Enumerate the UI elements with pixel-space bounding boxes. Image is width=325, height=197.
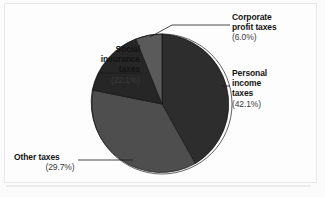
label-personal-percent: (42.1%) [232,99,261,109]
label-personal-line1: Personal [232,68,267,78]
label-personal-income-taxes: Personal income taxes (42.1%) [232,68,267,109]
label-social-line2: insurance [101,54,140,64]
label-social-insurance-taxes: Social insurance taxes (22.1%) [42,44,140,85]
label-corporate-percent: (6.0%) [232,32,256,42]
label-corporate-line1: Corporate [232,12,272,22]
pie-chart-figure: Corporate profit taxes (6.0%) Personal i… [0,0,325,197]
label-other-percent: (29.7%) [14,162,106,172]
label-personal-line2: income [232,78,261,88]
label-corporate-profit-taxes: Corporate profit taxes (6.0%) [232,12,277,43]
label-other-line1: Other taxes [14,152,60,162]
label-social-percent: (22.1%) [111,75,140,85]
label-other-taxes: Other taxes (29.7%) [14,152,106,172]
label-personal-line3: taxes [232,88,253,98]
label-corporate-line2: profit taxes [232,22,277,32]
label-social-line3: taxes [119,64,140,74]
label-social-line1: Social [116,44,140,54]
